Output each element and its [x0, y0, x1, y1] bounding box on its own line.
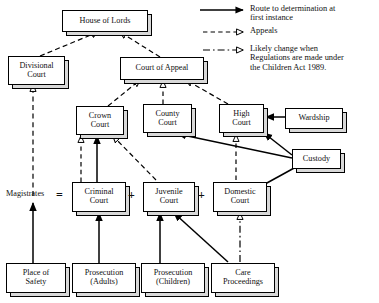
- node-face: CareProceedings: [211, 263, 275, 293]
- node-label: DivisionalCourt: [17, 62, 55, 79]
- operator-equals: =: [56, 188, 63, 203]
- legend: [200, 10, 243, 50]
- node-label: Custody: [301, 155, 332, 164]
- node-juvenile-court[interactable]: JuvenileCourt: [143, 182, 193, 210]
- node-care-proceedings[interactable]: CareProceedings: [211, 263, 273, 291]
- node-face: DivisionalCourt: [8, 56, 65, 85]
- edge-custody-to-high: [264, 133, 292, 155]
- node-label: DomesticCourt: [222, 188, 257, 205]
- node-face: House of Lords: [62, 10, 148, 32]
- node-face: Prosecution(Children): [141, 263, 205, 293]
- node-face: Wardship: [285, 108, 343, 129]
- node-domestic-court[interactable]: DomesticCourt: [213, 182, 265, 210]
- node-face: CountyCourt: [143, 104, 192, 133]
- node-label: CrownCourt: [87, 112, 113, 129]
- legend-route-text: Route to determination atfirst instance: [250, 4, 335, 23]
- operator-plus-2: +: [198, 188, 205, 203]
- node-county-court[interactable]: CountyCourt: [143, 104, 190, 131]
- node-face: HighCourt: [219, 104, 264, 133]
- node-label: House of Lords: [78, 17, 133, 26]
- node-label: Prosecution(Adults): [83, 269, 126, 286]
- node-face: CriminalCourt: [72, 182, 126, 212]
- node-criminal-court[interactable]: CriminalCourt: [72, 182, 124, 210]
- node-label: Prosecution(Children): [152, 269, 195, 286]
- node-face: Custody: [292, 149, 341, 169]
- node-face: Place ofSafety: [6, 263, 66, 293]
- node-face: DomesticCourt: [213, 182, 267, 212]
- node-house-of-lords[interactable]: House of Lords: [62, 10, 146, 30]
- node-label: CountyCourt: [153, 110, 181, 127]
- node-label: Place ofSafety: [21, 269, 52, 286]
- node-face: Prosecution(Adults): [72, 263, 136, 293]
- node-label: Wardship: [296, 114, 331, 123]
- edge-juvenile-to-crown: [113, 136, 156, 180]
- node-label: CareProceedings: [221, 269, 265, 286]
- legend-appeals-text: Appeals: [250, 26, 277, 35]
- node-label: Court of Appeal: [134, 64, 191, 73]
- node-wardship[interactable]: Wardship: [285, 108, 341, 127]
- node-label: HighCourt: [230, 110, 253, 127]
- operator-plus-1: +: [128, 188, 135, 203]
- node-label: CriminalCourt: [82, 188, 115, 205]
- node-face: CrownCourt: [76, 106, 124, 135]
- node-face: Court of Appeal: [120, 57, 204, 80]
- legend-change-text: Likely change whenRegulations are made u…: [250, 44, 344, 72]
- edge-custody-to-county: [178, 134, 292, 158]
- node-prosecution-adults[interactable]: Prosecution(Adults): [72, 263, 134, 291]
- node-label: JuvenileCourt: [153, 188, 184, 205]
- node-custody[interactable]: Custody: [292, 149, 339, 167]
- node-place-of-safety[interactable]: Place ofSafety: [6, 263, 64, 291]
- edge-care-to-juvenile: [174, 213, 228, 262]
- node-high-court[interactable]: HighCourt: [219, 104, 262, 131]
- node-prosecution-children[interactable]: Prosecution(Children): [141, 263, 203, 291]
- node-crown-court[interactable]: CrownCourt: [76, 106, 122, 133]
- node-divisional-court[interactable]: DivisionalCourt: [8, 56, 63, 83]
- magistrates-label: Magistrates: [6, 189, 44, 198]
- node-face: JuvenileCourt: [143, 182, 195, 212]
- node-court-of-appeal[interactable]: Court of Appeal: [120, 57, 202, 78]
